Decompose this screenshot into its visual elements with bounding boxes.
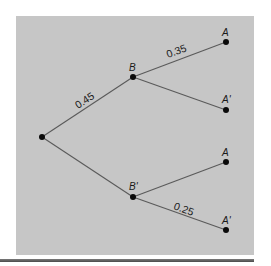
probability-tree: B B' A A' A A' 0.45 0.35 0.25 <box>0 0 271 266</box>
probability-root-b: 0.45 <box>73 89 97 110</box>
node-b-a <box>223 39 229 45</box>
label-b-prime: B' <box>129 181 139 192</box>
edge-b-to-a-prime <box>133 77 226 110</box>
node-b-a-prime <box>223 107 229 113</box>
node-root <box>39 134 45 140</box>
edge-root-to-b-prime <box>42 137 133 197</box>
edge-b-prime-to-a <box>133 162 226 197</box>
label-b-prime-a-prime: A' <box>221 215 232 226</box>
label-b-a-prime: A' <box>221 94 232 105</box>
edge-root-to-b <box>42 77 133 137</box>
node-b-prime-a-prime <box>223 227 229 233</box>
label-b: B <box>129 62 136 73</box>
node-b <box>130 74 136 80</box>
label-b-a: A <box>221 27 229 38</box>
node-b-prime <box>130 194 136 200</box>
label-b-prime-a: A <box>221 147 229 158</box>
node-b-prime-a <box>223 159 229 165</box>
